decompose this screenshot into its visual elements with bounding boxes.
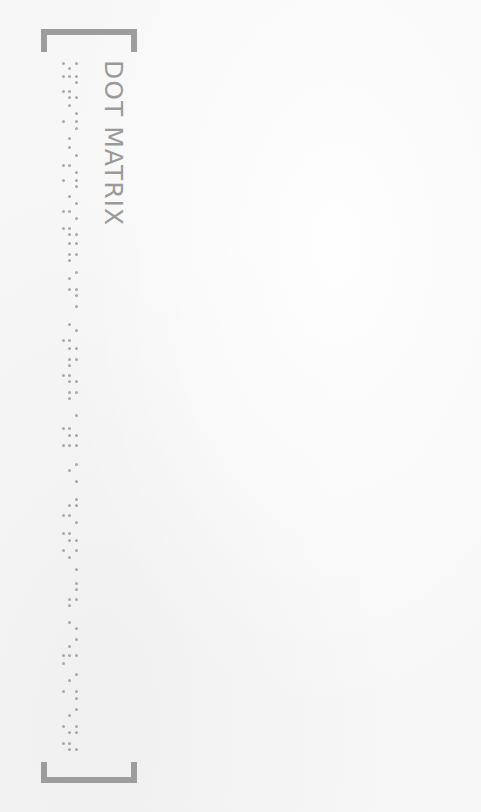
braille-dot — [68, 427, 71, 430]
braille-dot — [68, 621, 71, 624]
braille-dot — [62, 532, 65, 535]
braille-dot — [62, 210, 65, 213]
braille-dot — [68, 514, 71, 517]
braille-dot — [68, 242, 71, 245]
braille-dot — [68, 210, 71, 213]
braille-dot — [75, 391, 78, 394]
braille-dot — [68, 742, 71, 745]
braille-dot — [62, 339, 65, 342]
braille-dot — [68, 253, 71, 256]
braille-dot — [62, 725, 65, 728]
braille-dot — [75, 154, 78, 157]
braille-dot — [68, 532, 71, 535]
braille-dot — [75, 271, 78, 274]
braille-dot-column — [0, 0, 481, 812]
braille-dot — [68, 504, 71, 507]
braille-dot — [75, 627, 78, 630]
braille-dot — [75, 75, 78, 78]
braille-dot — [75, 253, 78, 256]
braille-dot — [75, 62, 78, 65]
braille-dot — [75, 690, 78, 693]
braille-dot — [68, 391, 71, 394]
braille-dot — [68, 434, 71, 437]
braille-dot — [75, 582, 78, 585]
braille-dot — [75, 498, 78, 501]
braille-dot — [68, 277, 71, 280]
braille-dot — [75, 748, 78, 751]
braille-dot — [75, 463, 78, 466]
braille-dot — [75, 414, 78, 417]
braille-dot — [75, 568, 78, 571]
braille-dot — [68, 227, 71, 230]
braille-dot — [68, 654, 71, 657]
braille-dot — [62, 742, 65, 745]
braille-dot — [62, 227, 65, 230]
braille-dot — [62, 374, 65, 377]
braille-dot — [68, 90, 71, 93]
braille-dot — [68, 444, 71, 447]
braille-dot — [75, 673, 78, 676]
braille-dot — [62, 690, 65, 693]
braille-dot — [75, 434, 78, 437]
braille-dot — [75, 444, 78, 447]
braille-dot — [75, 380, 78, 383]
braille-dot — [62, 120, 65, 123]
braille-dot — [68, 645, 71, 648]
braille-dot — [68, 146, 71, 149]
braille-dot — [68, 556, 71, 559]
braille-dot — [75, 725, 78, 728]
braille-dot — [68, 604, 71, 607]
braille-dot — [68, 679, 71, 682]
dot-matrix-card: DOT MATRIX — [0, 0, 481, 812]
braille-dot — [68, 96, 71, 99]
braille-dot — [75, 120, 78, 123]
braille-dot — [75, 504, 78, 507]
braille-dot — [75, 127, 78, 130]
braille-dot — [68, 469, 71, 472]
braille-dot — [75, 697, 78, 700]
braille-dot — [62, 662, 65, 665]
braille-dot — [75, 329, 78, 332]
braille-dot — [68, 75, 71, 78]
braille-dot — [75, 96, 78, 99]
braille-dot — [75, 242, 78, 245]
braille-dot — [75, 233, 78, 236]
braille-dot — [68, 195, 71, 198]
braille-dot — [75, 305, 78, 308]
braille-dot — [62, 514, 65, 517]
braille-dot — [75, 294, 78, 297]
braille-dot — [75, 185, 78, 188]
braille-dot — [68, 364, 71, 367]
braille-dot — [62, 427, 65, 430]
braille-dot — [62, 164, 65, 167]
braille-dot — [68, 288, 71, 291]
braille-dot — [68, 137, 71, 140]
braille-dot — [62, 75, 65, 78]
braille-dot — [62, 90, 65, 93]
braille-dot — [75, 638, 78, 641]
braille-dot — [75, 217, 78, 220]
braille-dot — [68, 339, 71, 342]
braille-dot — [75, 480, 78, 483]
bottom-bracket-frame — [41, 762, 137, 783]
braille-dot — [68, 374, 71, 377]
braille-dot — [68, 731, 71, 734]
braille-dot — [68, 714, 71, 717]
braille-dot — [75, 588, 78, 591]
braille-dot — [75, 549, 78, 552]
braille-dot — [75, 598, 78, 601]
braille-dot — [68, 539, 71, 542]
braille-dot — [68, 164, 71, 167]
braille-dot — [68, 380, 71, 383]
braille-dot — [68, 259, 71, 262]
braille-dot — [75, 539, 78, 542]
braille-dot — [68, 233, 71, 236]
braille-dot — [75, 654, 78, 657]
braille-dot — [75, 288, 78, 291]
braille-dot — [68, 358, 71, 361]
braille-dot — [75, 708, 78, 711]
braille-dot — [75, 521, 78, 524]
braille-dot — [68, 598, 71, 601]
braille-dot — [75, 171, 78, 174]
braille-dot — [75, 179, 78, 182]
